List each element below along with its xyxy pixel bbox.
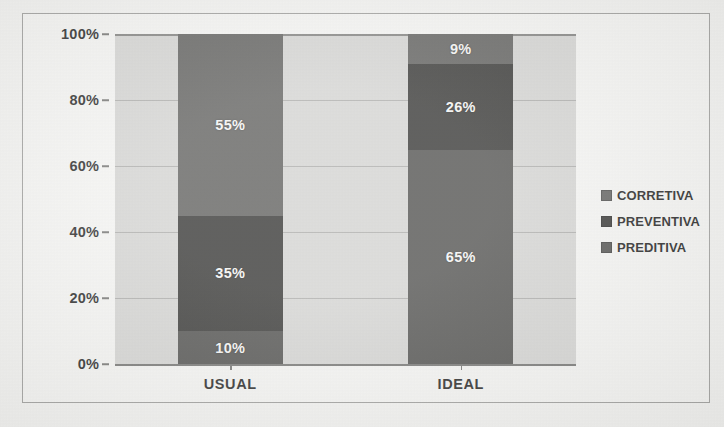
bar-value-label: 55% (215, 117, 245, 133)
y-tick-mark-20% (102, 297, 109, 299)
bar-value-label: 9% (450, 41, 472, 57)
y-tick-label-60%: 60% (69, 158, 99, 174)
plot-area: 10%35%55%65%26%9% (115, 34, 576, 364)
legend-swatch-icon (601, 242, 612, 253)
chart-legend: CORRETIVAPREVENTIVAPREDITIVA (601, 182, 705, 260)
legend-label: CORRETIVA (617, 188, 694, 203)
y-axis: 0%20%40%60%80%100% (23, 34, 109, 364)
y-tick-label-0%: 0% (78, 356, 99, 372)
legend-item-preventiva[interactable]: PREVENTIVA (601, 208, 705, 234)
y-tick-mark-80% (102, 99, 109, 101)
bar-segment-usual-preditiva[interactable]: 10% (178, 331, 283, 364)
x-tick-label-ideal: IDEAL (438, 376, 485, 392)
legend-label: PREDITIVA (617, 240, 686, 255)
bar-value-label: 65% (446, 249, 476, 265)
legend-item-preditiva[interactable]: PREDITIVA (601, 234, 705, 260)
legend-swatch-icon (601, 216, 612, 227)
legend-label: PREVENTIVA (617, 214, 700, 229)
bar-stack-ideal[interactable]: 65%26%9% (408, 34, 513, 364)
x-tick-mark-usual (230, 364, 232, 370)
y-tick-mark-100% (102, 33, 109, 35)
bar-value-label: 35% (215, 265, 245, 281)
bar-segment-ideal-preditiva[interactable]: 65% (408, 150, 513, 365)
legend-swatch-icon (601, 190, 612, 201)
bar-segment-usual-corretiva[interactable]: 55% (178, 34, 283, 216)
y-tick-label-40%: 40% (69, 224, 99, 240)
gridline-0% (115, 364, 576, 366)
y-tick-label-20%: 20% (69, 290, 99, 306)
legend-item-corretiva[interactable]: CORRETIVA (601, 182, 705, 208)
bar-value-label: 10% (215, 340, 245, 356)
y-tick-label-100%: 100% (61, 26, 99, 42)
x-tick-label-usual: USUAL (204, 376, 257, 392)
bar-segment-usual-preventiva[interactable]: 35% (178, 216, 283, 332)
x-axis: USUALIDEAL (115, 370, 576, 396)
y-tick-mark-40% (102, 231, 109, 233)
bar-segment-ideal-corretiva[interactable]: 9% (408, 34, 513, 64)
chart-frame: 0%20%40%60%80%100% 10%35%55%65%26%9% USU… (22, 13, 710, 403)
bar-value-label: 26% (446, 99, 476, 115)
x-tick-mark-ideal (461, 364, 463, 370)
bar-stack-usual[interactable]: 10%35%55% (178, 34, 283, 364)
y-tick-mark-0% (102, 363, 109, 365)
y-tick-label-80%: 80% (69, 92, 99, 108)
bar-segment-ideal-preventiva[interactable]: 26% (408, 64, 513, 150)
y-tick-mark-60% (102, 165, 109, 167)
